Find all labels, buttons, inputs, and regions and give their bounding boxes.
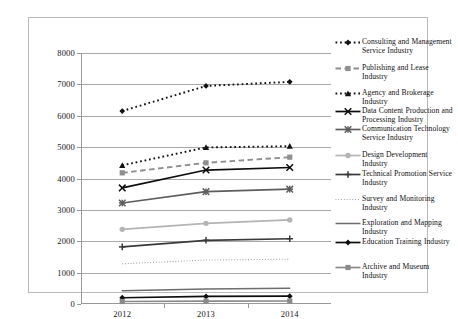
legend-label: Survey and Monitoring Industry: [361, 194, 455, 213]
y-tick-mark: [77, 304, 81, 305]
chart-legend: Consulting and Management Service Indust…: [335, 37, 455, 309]
legend-item[interactable]: Technical Promotion Service Industry: [335, 169, 455, 188]
legend-item[interactable]: Archive and Museum Industry: [335, 262, 455, 281]
y-tick-label: 3000: [57, 206, 75, 215]
series-line: [122, 259, 290, 264]
legend-marker-icon: [335, 150, 361, 161]
legend-marker-icon: [335, 63, 361, 74]
y-tick-label: 5000: [57, 143, 75, 152]
legend-item[interactable]: Survey and Monitoring Industry: [335, 194, 455, 213]
legend-marker-icon: [335, 37, 361, 48]
legend-marker-icon: [335, 88, 361, 99]
x-tick-mark: [248, 304, 249, 308]
legend-marker-icon: [335, 194, 361, 205]
legend-item[interactable]: Education Training Industry: [335, 237, 455, 248]
y-tick-label: 0: [71, 300, 75, 309]
legend-item[interactable]: Data Content Production and Processing I…: [335, 106, 455, 125]
legend-label: Technical Promotion Service Industry: [361, 169, 455, 188]
x-tick-mark: [164, 304, 165, 308]
legend-marker-icon: [335, 124, 361, 135]
legend-label: Publishing and Lease Industry: [361, 63, 455, 82]
y-tick-label: 8000: [57, 49, 75, 58]
y-tick-label: 7000: [57, 80, 75, 89]
x-tick-label: 2014: [281, 310, 299, 319]
legend-label: Education Training Industry: [361, 237, 455, 246]
legend-item[interactable]: Consulting and Management Service Indust…: [335, 37, 455, 56]
y-tick-label: 6000: [57, 112, 75, 121]
legend-label: Communication Technology Service Industr…: [361, 124, 455, 143]
legend-item[interactable]: Agency and Brokerage Industry: [335, 88, 455, 107]
legend-label: Design Development Industry: [361, 150, 455, 169]
plot-area: 010002000300040005000600070008000 201220…: [81, 53, 331, 304]
legend-marker-icon: [335, 262, 361, 273]
legend-label: Archive and Museum Industry: [361, 262, 455, 281]
legend-marker-icon: [335, 169, 361, 180]
y-tick-label: 2000: [57, 237, 75, 246]
legend-marker-icon: [335, 218, 361, 229]
legend-marker-icon: [335, 237, 361, 248]
legend-item[interactable]: Publishing and Lease Industry: [335, 63, 455, 82]
chart-frame: 010002000300040005000600070008000 201220…: [28, 17, 428, 293]
y-tick-label: 1000: [57, 268, 75, 277]
legend-label: Exploration and Mapping Industry: [361, 218, 455, 237]
series-line: [122, 288, 290, 291]
legend-marker-icon: [335, 106, 361, 117]
legend-item[interactable]: Exploration and Mapping Industry: [335, 218, 455, 237]
legend-label: Consulting and Management Service Indust…: [361, 37, 455, 56]
x-tick-label: 2013: [197, 310, 215, 319]
x-tick-label: 2012: [113, 310, 131, 319]
legend-item[interactable]: Communication Technology Service Industr…: [335, 124, 455, 143]
y-tick-label: 4000: [57, 174, 75, 183]
legend-label: Agency and Brokerage Industry: [361, 88, 455, 107]
legend-item[interactable]: Design Development Industry: [335, 150, 455, 169]
legend-label: Data Content Production and Processing I…: [361, 106, 455, 125]
series-plot: [81, 53, 331, 304]
chart-figure: 010002000300040005000600070008000 201220…: [0, 0, 458, 319]
